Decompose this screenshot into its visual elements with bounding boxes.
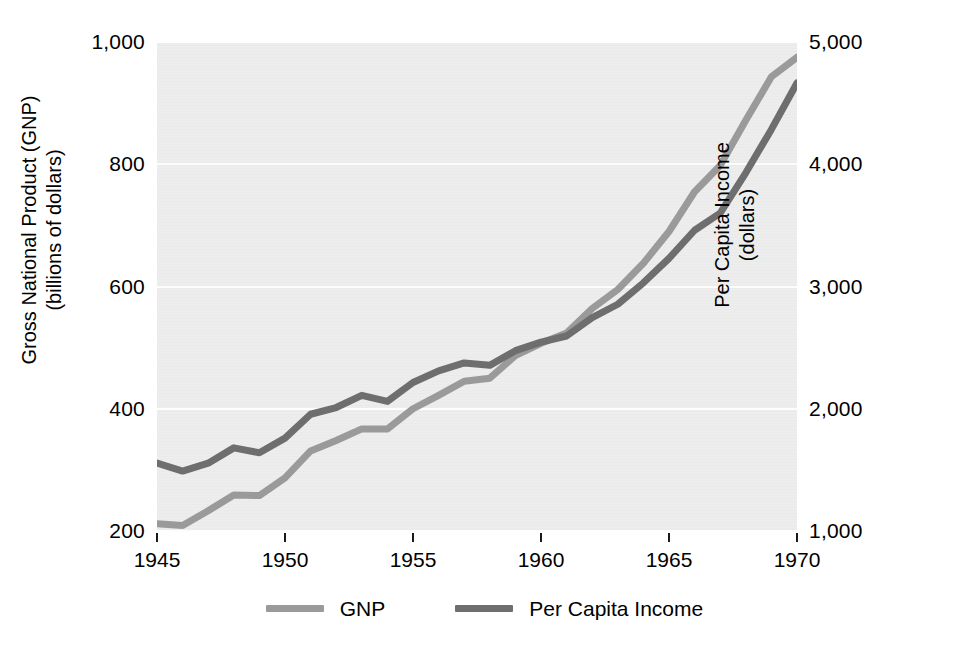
left-axis-title: Gross National Product (GNP)(billions of… [17,20,67,440]
legend-line-swatch [266,605,324,612]
series-line-per-capita-income [157,83,797,471]
legend-entry-gnp[interactable]: GNP [266,598,386,619]
left-axis-tick-label: 200 [109,520,145,541]
x-axis-tickmark [668,533,670,542]
legend-label: GNP [340,598,386,619]
right-axis-tick-label: 4,000 [809,153,863,174]
legend-label: Per Capita Income [529,598,703,619]
plot-area [157,42,797,531]
x-axis-tick-label: 1945 [134,549,181,570]
right-axis-tick-label: 2,000 [809,398,863,419]
x-axis-tick-label: 1955 [390,549,437,570]
right-axis-tick-label: 5,000 [809,31,863,52]
x-axis-tickmark [412,533,414,542]
left-axis-tick-label: 800 [109,153,145,174]
right-axis-title-line: (dollars) [735,15,760,435]
right-axis-title: Per Capita Income(dollars) [710,15,760,435]
left-axis-title-line: (billions of dollars) [42,20,67,440]
left-axis-tick-label: 1,000 [91,31,145,52]
chart-figure: 2004006008001,000 1,0002,0003,0004,0005,… [0,0,969,661]
chart-legend: GNPPer Capita Income [0,598,969,619]
left-axis-tick-label: 600 [109,276,145,297]
x-axis-tick-label: 1965 [646,549,693,570]
legend-entry-per-capita-income[interactable]: Per Capita Income [455,598,703,619]
x-axis-tickmark [284,533,286,542]
series-lines [157,42,797,531]
right-axis-tick-label: 1,000 [809,520,863,541]
left-axis-tick-label: 400 [109,398,145,419]
right-axis-tick-label: 3,000 [809,276,863,297]
x-axis-tick-label: 1960 [518,549,565,570]
left-axis-title-line: Gross National Product (GNP) [17,20,42,440]
x-axis-tickmark [156,533,158,542]
x-axis-tick-label: 1970 [774,549,821,570]
x-axis-tickmark [796,533,798,542]
x-axis-tick-label: 1950 [262,549,309,570]
legend-line-swatch [455,605,513,612]
right-axis-title-line: Per Capita Income [710,15,735,435]
x-axis-tickmark [540,533,542,542]
series-line-gnp [157,57,797,525]
